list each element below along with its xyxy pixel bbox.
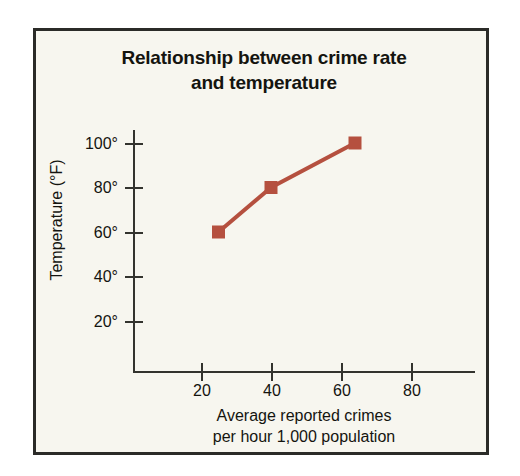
series-plot: [36, 31, 492, 458]
chart-frame: Relationship between crime rate and temp…: [33, 28, 489, 455]
plot-area: 100° 80° 60° 40° 20° 20 40 60 80 Tempera…: [36, 31, 492, 458]
data-point-marker: [212, 226, 225, 239]
series-line: [219, 143, 356, 232]
data-point-marker: [349, 137, 362, 150]
data-point-marker: [265, 181, 278, 194]
figure-root: Relationship between crime rate and temp…: [0, 0, 520, 476]
